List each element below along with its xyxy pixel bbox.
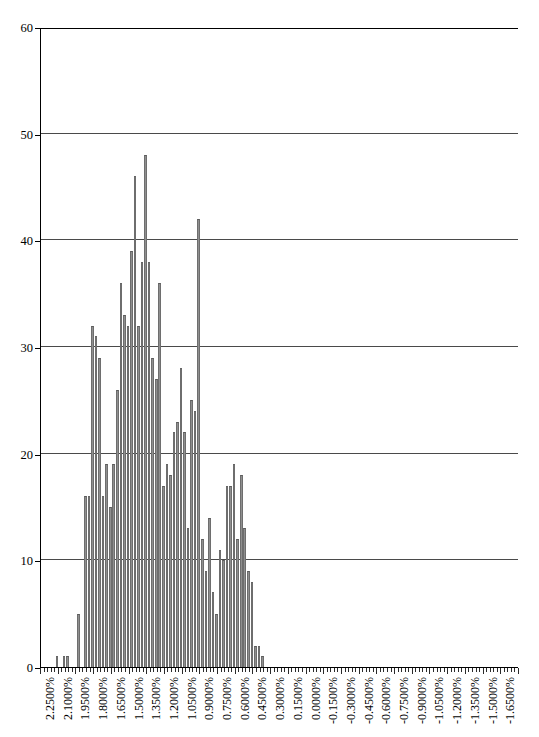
histogram-bar [240,475,243,667]
plot-area [40,28,518,668]
histogram-bar [66,656,69,667]
x-tick-label: -0.9000% [416,677,428,724]
x-tick-label: 0.4500% [256,677,268,720]
x-tick-mark [249,668,250,672]
histogram-bar [88,496,91,667]
x-tick-mark [61,668,62,672]
x-tick-mark [461,668,462,672]
x-tick-mark [157,668,158,672]
x-tick-mark [511,668,512,672]
histogram-bar [215,614,218,667]
x-tick-mark [422,668,423,672]
x-tick-mark [164,668,165,674]
x-tick-mark [277,668,278,672]
x-tick-mark [90,668,91,672]
histogram-bar [190,400,193,667]
x-tick-mark [362,668,363,672]
histogram-bar [233,464,236,667]
histogram-bar [212,592,215,667]
x-tick-mark [373,668,374,672]
x-tick-mark [104,668,105,672]
x-tick-mark [348,668,349,672]
chart-page: 0102030405060 2.2500%2.1000%1.9500%1.800… [0,0,539,737]
x-tick-mark [185,668,186,672]
x-tick-mark [132,668,133,672]
x-tick-label: 1.3500% [150,677,162,720]
x-tick-mark [153,668,154,672]
x-tick-mark [454,668,455,672]
x-tick-mark [419,668,420,672]
histogram-bar [176,422,179,667]
x-tick-mark [118,668,119,672]
x-tick-mark [334,668,335,672]
x-tick-mark [320,668,321,672]
histogram-bar [166,464,169,667]
y-tick-label: 10 [21,555,34,568]
x-tick-mark [291,668,292,672]
histogram-bar [91,326,94,667]
x-tick-mark [150,668,151,672]
x-tick-label: -0.4500% [363,677,375,724]
x-tick-mark [468,668,469,672]
x-tick-mark [518,668,519,674]
x-tick-label: 1.0500% [186,677,198,720]
x-tick-mark [337,668,338,672]
x-tick-mark [412,668,413,674]
histogram-bars [41,29,518,667]
histogram-bar [120,283,123,667]
x-tick-label: 0.3000% [274,677,286,720]
x-tick-mark [203,668,204,672]
x-tick-mark [260,668,261,672]
histogram-bar [158,283,161,667]
y-tick-label: 0 [27,662,33,675]
x-tick-mark [376,668,377,674]
x-tick-mark [433,668,434,672]
histogram-bar [155,379,158,667]
histogram-bar [258,646,261,667]
histogram-bar [123,315,126,667]
histogram-bar [162,486,165,667]
x-tick-mark [167,668,168,672]
x-tick-mark [359,668,360,674]
x-tick-mark [58,668,59,674]
y-tick-label: 30 [21,342,34,355]
x-tick-mark [213,668,214,672]
histogram-bar [151,358,154,667]
x-tick-mark [75,668,76,674]
histogram-bar [116,390,119,667]
x-tick-mark [210,668,211,672]
histogram-bar [137,326,140,667]
histogram-bar [173,432,176,667]
histogram-bar [141,262,144,667]
histogram-bar [105,464,108,667]
y-tick-label: 60 [21,22,34,35]
x-tick-label: 1.6500% [115,677,127,720]
x-tick-mark [72,668,73,672]
x-tick-mark [121,668,122,672]
x-tick-mark [295,668,296,672]
x-tick-mark [224,668,225,672]
x-tick-mark [82,668,83,672]
x-axis: 2.2500%2.1000%1.9500%1.8000%1.6500%1.500… [40,668,518,737]
x-tick-mark [196,668,197,672]
histogram-bar [236,539,239,667]
histogram-bar [222,560,225,667]
x-tick-mark [500,668,501,674]
histogram-bar [112,464,115,667]
x-tick-mark [44,668,45,672]
x-tick-mark [206,668,207,672]
x-tick-mark [426,668,427,672]
x-tick-mark [497,668,498,672]
x-tick-mark [267,668,268,672]
x-tick-mark [189,668,190,672]
histogram-bar [144,155,147,667]
histogram-bar [102,496,105,667]
x-tick-mark [514,668,515,672]
histogram-bar [56,656,59,667]
x-tick-mark [175,668,176,672]
x-tick-mark [444,668,445,672]
histogram-bar [134,176,137,667]
histogram-bar [219,550,222,667]
x-tick-mark [391,668,392,672]
histogram-bar [77,614,80,667]
